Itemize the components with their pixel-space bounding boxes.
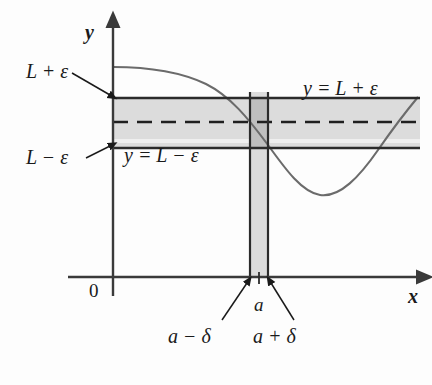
label-equation-upper: y = L + ε: [303, 78, 378, 98]
l-plus-epsilon-leader: [72, 73, 110, 95]
label-origin: 0: [89, 281, 99, 300]
label-x-axis: x: [408, 286, 418, 306]
label-l-plus-epsilon: L + ε: [26, 61, 68, 81]
a-minus-delta-leader: [222, 283, 247, 320]
limit-definition-figure: L + ε L − ε y = L + ε y = L − ε y x 0 a …: [0, 0, 432, 385]
a-plus-delta-leader: [271, 283, 294, 320]
label-l-minus-epsilon: L − ε: [26, 147, 68, 167]
label-y-axis: y: [85, 22, 94, 42]
label-a-minus-delta: a − δ: [168, 326, 211, 346]
label-equation-lower: y = L − ε: [124, 145, 199, 165]
figure-canvas: [0, 0, 432, 385]
label-a-plus-delta: a + δ: [253, 326, 296, 346]
label-a: a: [254, 295, 264, 314]
l-minus-epsilon-leader: [86, 146, 110, 158]
